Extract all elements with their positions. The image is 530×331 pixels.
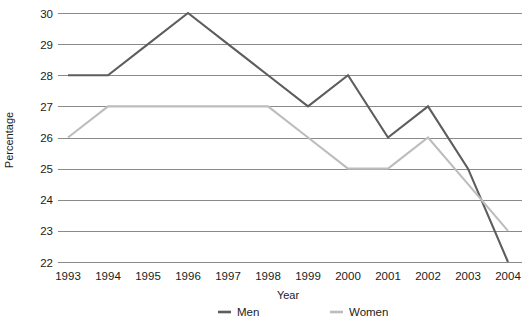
line-chart: 222324252627282930 199319941995199619971…	[0, 0, 530, 331]
y-axis-tick-labels: 222324252627282930	[40, 8, 53, 269]
y-tick-label: 23	[40, 225, 53, 237]
y-tick-label: 24	[40, 194, 53, 206]
y-tick-label: 27	[40, 101, 53, 113]
series-line-men	[68, 13, 508, 262]
y-axis-title: Percentage	[3, 112, 15, 168]
x-tick-label: 1999	[295, 270, 321, 282]
x-tick-label: 2001	[375, 270, 401, 282]
y-tick-label: 22	[40, 257, 53, 269]
chart-legend: MenWomen	[218, 306, 388, 318]
x-tick-label: 1995	[135, 270, 161, 282]
gridlines-group	[58, 14, 522, 263]
x-tick-label: 2004	[495, 270, 521, 282]
y-tick-label: 30	[40, 8, 53, 20]
x-axis-title: Year	[277, 289, 300, 301]
series-line-women	[68, 106, 508, 231]
x-tick-label: 2003	[455, 270, 481, 282]
x-tick-label: 1997	[215, 270, 241, 282]
chart-canvas: 222324252627282930 199319941995199619971…	[0, 0, 530, 331]
x-tick-label: 2000	[335, 270, 361, 282]
y-tick-label: 28	[40, 70, 53, 82]
x-tick-label: 2002	[415, 270, 441, 282]
x-tick-label: 1998	[255, 270, 281, 282]
y-tick-label: 26	[40, 132, 53, 144]
x-axis-tick-labels: 1993199419951996199719981999200020012002…	[55, 270, 521, 282]
x-tick-label: 1996	[175, 270, 201, 282]
legend-label-women: Women	[349, 306, 388, 318]
x-tick-label: 1993	[55, 270, 81, 282]
y-tick-label: 25	[40, 163, 53, 175]
x-tick-label: 1994	[95, 270, 121, 282]
series-group	[68, 13, 508, 262]
y-tick-label: 29	[40, 39, 53, 51]
legend-label-men: Men	[237, 306, 259, 318]
